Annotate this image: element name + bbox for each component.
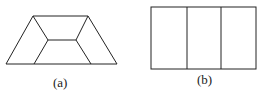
outer-rectangle bbox=[151, 7, 256, 69]
label-b: (b) bbox=[197, 72, 212, 87]
diag-top-right bbox=[76, 16, 88, 40]
diag-bottom-left bbox=[34, 40, 48, 64]
figure-b bbox=[151, 7, 256, 69]
diagram-canvas: (a) (b) bbox=[0, 0, 261, 95]
diag-top-left bbox=[33, 16, 48, 40]
label-a: (a) bbox=[53, 75, 67, 90]
diag-bottom-right bbox=[76, 40, 91, 64]
figure-a bbox=[6, 16, 117, 64]
